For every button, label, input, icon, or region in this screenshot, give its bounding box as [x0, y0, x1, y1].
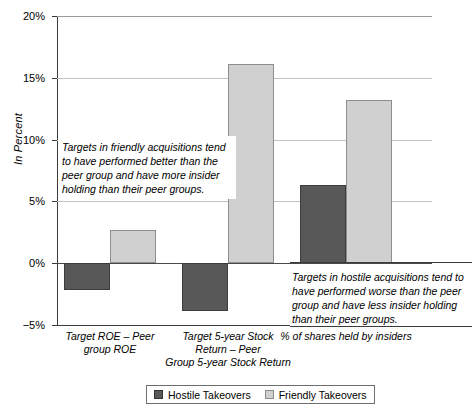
- legend-label-friendly: Friendly Takeovers: [279, 389, 367, 401]
- y-tick-label--5: −5%: [0, 319, 45, 331]
- tick-mark--5: [52, 325, 57, 326]
- tick-mark-15: [52, 78, 57, 79]
- annotation-hostile: Targets in hostile acquisitions tend to …: [290, 266, 472, 329]
- x-category-label-2: % of shares held by insiders: [266, 330, 426, 343]
- annotation-hostile-bottom-rule: [290, 326, 472, 327]
- tick-mark-0: [52, 263, 57, 264]
- x-category-label-1-line-2: Group 5-year Stock Return: [153, 356, 303, 369]
- bar-hostile-0[interactable]: [64, 263, 110, 290]
- tick-mark-20: [52, 16, 57, 17]
- bar-friendly-0[interactable]: [110, 230, 156, 263]
- annotation-friendly: Targets in friendly acquisitions tend to…: [58, 136, 236, 199]
- legend: Hostile Takeovers Friendly Takeovers: [146, 385, 375, 404]
- bar-chart: In Percent 20%15%10%5%0%−5% Target ROE –…: [0, 0, 473, 413]
- tick-mark-10: [52, 140, 57, 141]
- legend-swatch-friendly-icon: [265, 390, 274, 399]
- tick-mark-5: [52, 201, 57, 202]
- y-tick-label-5: 5%: [0, 195, 45, 207]
- legend-item-friendly[interactable]: Friendly Takeovers: [265, 389, 367, 401]
- legend-item-hostile[interactable]: Hostile Takeovers: [154, 389, 251, 401]
- y-tick-label-20: 20%: [0, 10, 45, 22]
- x-category-label-2-line-0: % of shares held by insiders: [266, 330, 426, 343]
- gridline-0: [57, 263, 432, 264]
- y-tick-label-10: 10%: [0, 134, 45, 146]
- x-category-label-1-line-1: Return – Peer: [153, 343, 303, 356]
- bar-hostile-1[interactable]: [182, 263, 228, 311]
- annotation-hostile-top-rule: [290, 262, 472, 263]
- legend-label-hostile: Hostile Takeovers: [168, 389, 251, 401]
- legend-swatch-hostile-icon: [154, 390, 163, 399]
- y-tick-label-0: 0%: [0, 257, 45, 269]
- bar-hostile-2[interactable]: [300, 185, 346, 263]
- bar-friendly-2[interactable]: [346, 100, 392, 263]
- y-tick-label-15: 15%: [0, 72, 45, 84]
- gridline-20: [57, 16, 432, 17]
